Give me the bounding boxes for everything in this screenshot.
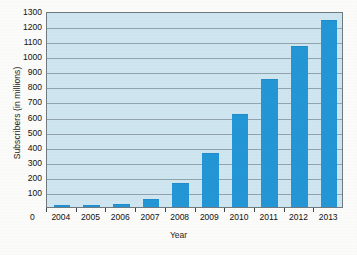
x-tick-label: 2013 — [313, 212, 343, 222]
x-axis-tick-labels: 2004200520062007200820092010201120122013 — [0, 212, 357, 226]
bar-chart-figure: Subscribers (in millions) 13001200110010… — [0, 0, 357, 255]
y-tick-label: 1200 — [8, 23, 42, 31]
bar — [202, 153, 219, 207]
x-tick-label: 2005 — [76, 212, 106, 222]
bar — [54, 205, 71, 208]
bar — [261, 79, 278, 207]
x-tick-label: 2012 — [284, 212, 314, 222]
bar — [172, 183, 189, 207]
y-axis-tick-labels: 1300120011001000900800700600500400300200… — [8, 12, 42, 208]
x-tick-label: 2011 — [254, 212, 284, 222]
y-tick-label: 300 — [8, 159, 42, 167]
x-axis-title: Year — [0, 230, 357, 240]
y-tick-label: 400 — [8, 144, 42, 152]
y-tick-label: 900 — [8, 68, 42, 76]
bar — [232, 114, 249, 207]
y-tick-label: 800 — [8, 83, 42, 91]
y-tick-label: 1000 — [8, 53, 42, 61]
bar — [143, 199, 160, 207]
bar — [83, 205, 100, 208]
y-tick-label: 500 — [8, 129, 42, 137]
y-tick-label: 1100 — [8, 38, 42, 46]
x-tick-label: 2004 — [46, 212, 76, 222]
y-tick-label: 200 — [8, 174, 42, 182]
bar-series — [47, 13, 342, 207]
y-tick-label: 700 — [8, 98, 42, 106]
x-tick-label: 2010 — [224, 212, 254, 222]
x-tick-label: 2006 — [105, 212, 135, 222]
y-tick-label: 100 — [8, 189, 42, 197]
y-tick-label: 600 — [8, 114, 42, 122]
x-tick-label: 2008 — [165, 212, 195, 222]
y-tick-label: 1300 — [8, 8, 42, 16]
bar — [291, 46, 308, 207]
x-tick-label: 2009 — [195, 212, 225, 222]
bar — [113, 204, 130, 207]
bar — [321, 20, 338, 207]
plot-area — [46, 12, 343, 208]
x-tick-label: 2007 — [135, 212, 165, 222]
